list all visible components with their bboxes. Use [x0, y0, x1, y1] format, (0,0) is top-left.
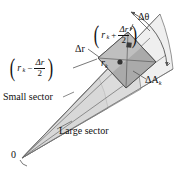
inner-open-paren: ( [10, 59, 15, 78]
center-radius-sub: k [105, 62, 108, 69]
inner-close-paren: ) [47, 59, 52, 78]
inner-radius-label: ( rk − Δr 2 ) [8, 58, 54, 78]
inner-numerator: Δr [34, 58, 45, 68]
figure-canvas [0, 0, 182, 170]
polar-area-element-figure: Δθ ( rk + Δr 2 ) ( rk − Δr 2 ) Δr [0, 0, 182, 170]
inner-fraction: Δr 2 [34, 58, 45, 78]
delta-r-label: Δr [75, 44, 85, 54]
inner-radius-base: r [17, 63, 21, 73]
area-element-base: ΔA [145, 74, 159, 85]
origin-tick [20, 160, 27, 166]
outer-radius-sub: k [107, 34, 110, 40]
inner-denominator: 2 [37, 69, 44, 79]
outer-open-paren: ( [94, 26, 99, 45]
origin-label: 0 [11, 150, 16, 160]
area-element-label: ΔAk [145, 75, 161, 85]
leader-small-sector [63, 92, 74, 97]
outer-close-paren: ) [131, 26, 136, 45]
inner-radius-sub: k [23, 67, 26, 73]
outer-radius-label: ( rk + Δr 2 ) [92, 25, 138, 45]
outer-fraction: Δr 2 [118, 25, 129, 45]
outer-denominator: 2 [121, 36, 128, 46]
large-sector-label: Large sector [59, 126, 109, 136]
inner-operator: − [27, 64, 33, 73]
outer-radius-base: r [101, 30, 105, 40]
outer-operator: + [111, 31, 117, 40]
outer-numerator: Δr [118, 25, 129, 35]
leader-inner-radius [73, 59, 97, 68]
delta-r-bracket [88, 49, 99, 57]
center-radius-label: rk [101, 58, 108, 68]
delta-theta-label: Δθ [138, 12, 149, 22]
small-sector-label: Small sector [3, 92, 53, 102]
area-element-sub: k [159, 79, 162, 86]
center-point-marker [117, 59, 122, 64]
